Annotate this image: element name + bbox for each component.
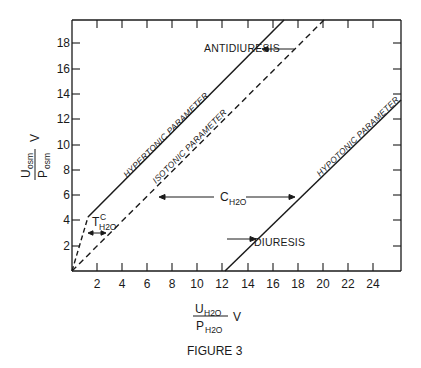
y-tick-label: 12 bbox=[57, 112, 71, 126]
x-tick-label: 10 bbox=[190, 277, 204, 291]
arrow-head-left-icon bbox=[159, 195, 165, 200]
x-tick-label: 12 bbox=[215, 277, 229, 291]
c-h2o-sub: H2O bbox=[229, 197, 247, 207]
isotonic-label: ISOTONIC PARAMETER bbox=[150, 107, 228, 185]
x-tick-label: 14 bbox=[241, 277, 255, 291]
figure-caption: FIGURE 3 bbox=[187, 344, 243, 358]
c-h2o-label: C H2O bbox=[220, 190, 247, 207]
y-axis-denominator-sub: osm bbox=[42, 153, 52, 169]
tc-h2o-sup: C bbox=[100, 212, 106, 222]
y-tick-label: 4 bbox=[63, 213, 70, 227]
x-axis-numerator: U bbox=[195, 302, 204, 316]
x-axis-denominator-sub: H2O bbox=[205, 325, 223, 335]
y-axis-numerator: U bbox=[19, 169, 33, 178]
tc-h2o-sub: H2O bbox=[99, 222, 117, 232]
y-axis-denominator: P bbox=[36, 170, 50, 178]
x-axis-label: U H2O P H2O V bbox=[193, 302, 241, 335]
x-tick-label: 4 bbox=[119, 277, 126, 291]
x-tick-label: 20 bbox=[316, 277, 330, 291]
y-tick-labels: 2 4 6 8 10 12 14 16 18 bbox=[57, 36, 71, 253]
diuresis-label: DIURESIS bbox=[254, 236, 305, 248]
y-tick-label: 14 bbox=[57, 87, 71, 101]
y-axis-suffix: V bbox=[28, 134, 42, 142]
x-tick-label: 16 bbox=[266, 277, 280, 291]
y-tick-label: 16 bbox=[57, 62, 71, 76]
x-tick-label: 22 bbox=[341, 277, 355, 291]
x-tick-label: 24 bbox=[366, 277, 380, 291]
y-tick-label: 6 bbox=[63, 188, 70, 202]
y-tick-label: 18 bbox=[57, 36, 71, 50]
arrow-head-left-icon bbox=[88, 231, 93, 235]
hypotonic-label: HYPOTONIC PARAMETER bbox=[314, 94, 401, 178]
y-axis-numerator-sub: osm bbox=[25, 153, 35, 169]
x-axis-suffix: V bbox=[233, 310, 241, 324]
antidiuresis-label: ANTIDIURESIS bbox=[204, 42, 280, 54]
x-tick-labels: 2 4 6 8 10 12 14 16 18 20 22 24 bbox=[94, 277, 380, 291]
y-axis-label: U osm P osm V bbox=[19, 134, 52, 180]
tc-h2o-label: T C H2O bbox=[92, 212, 117, 232]
y-tick-label: 10 bbox=[57, 138, 71, 152]
arrow-head-right-icon bbox=[289, 195, 295, 200]
y-tick-label: 8 bbox=[63, 163, 70, 177]
x-tick-label: 6 bbox=[144, 277, 151, 291]
x-axis-denominator: P bbox=[196, 319, 204, 333]
x-tick-label: 2 bbox=[94, 277, 101, 291]
x-tick-label: 18 bbox=[291, 277, 305, 291]
x-tick-label: 8 bbox=[169, 277, 176, 291]
y-tick-label: 2 bbox=[63, 239, 70, 253]
isotonic-line bbox=[72, 20, 324, 271]
c-h2o-main: C bbox=[220, 190, 229, 204]
x-axis-ticks bbox=[97, 20, 373, 271]
figure-3-chart: 2 4 6 8 10 12 14 16 18 20 22 24 2 4 6 8 … bbox=[0, 0, 421, 368]
